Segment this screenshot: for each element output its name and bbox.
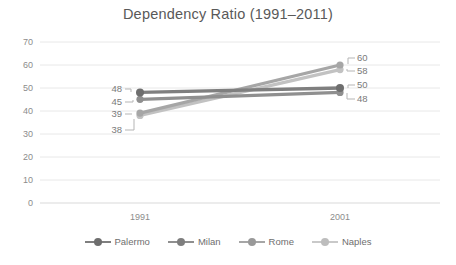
- y-tick-label: 0: [28, 198, 33, 208]
- legend-marker-icon: [312, 237, 338, 246]
- legend-marker-icon: [239, 237, 265, 246]
- legend-label: Palermo: [115, 236, 150, 247]
- legend-label: Milan: [198, 236, 221, 247]
- x-axis: 1991 2001: [130, 212, 350, 222]
- legend-label: Naples: [342, 236, 372, 247]
- data-label-left-rome: 39: [111, 108, 122, 119]
- data-label-right-palermo: 50: [357, 79, 368, 90]
- legend-item-naples[interactable]: Naples: [312, 236, 372, 247]
- x-tick-label: 1991: [130, 212, 150, 222]
- chart-container: Dependency Ratio (1991–2011) 70 60 50 40…: [0, 0, 456, 265]
- leader-line-right-48: [347, 93, 355, 99]
- y-axis: 70 60 50 40 30 20 10 0: [23, 37, 33, 208]
- chart-canvas: 70 60 50 40 30 20 10 0 1991 2001: [0, 0, 456, 265]
- legend-item-palermo[interactable]: Palermo: [85, 236, 150, 247]
- legend-item-rome[interactable]: Rome: [239, 236, 294, 247]
- leader-line-left-38: [125, 119, 134, 130]
- y-tick-label: 40: [23, 106, 33, 116]
- leader-line-right-58: [347, 69, 355, 71]
- legend-label: Rome: [269, 236, 294, 247]
- y-tick-label: 10: [23, 175, 33, 185]
- data-point-rome-1991: [136, 110, 143, 117]
- chart-legend: Palermo Milan Rome Naples: [0, 236, 456, 247]
- y-tick-label: 70: [23, 37, 33, 47]
- y-tick-label: 20: [23, 152, 33, 162]
- leader-line-left-45: [125, 100, 133, 102]
- series-line-palermo: [140, 88, 340, 92]
- leader-line-left-48: [125, 89, 131, 92]
- data-point-milan-1991: [136, 96, 143, 103]
- leader-line-right-60: [348, 58, 355, 64]
- data-point-palermo-1991: [136, 88, 144, 96]
- data-label-right-naples: 58: [357, 65, 368, 76]
- legend-marker-icon: [85, 237, 111, 246]
- data-label-right-milan: 48: [357, 93, 368, 104]
- legend-marker-icon: [168, 237, 194, 246]
- right-data-labels: 60 58 50 48: [347, 52, 368, 104]
- data-label-left-palermo: 48: [111, 83, 122, 94]
- left-data-labels: 48 45 39 38: [111, 83, 134, 135]
- data-label-left-naples: 38: [111, 124, 122, 135]
- legend-item-milan[interactable]: Milan: [168, 236, 221, 247]
- data-label-right-rome: 60: [357, 52, 368, 63]
- data-point-palermo-2001: [336, 84, 344, 92]
- x-tick-label: 2001: [330, 212, 350, 222]
- y-tick-label: 60: [23, 60, 33, 70]
- y-tick-label: 30: [23, 129, 33, 139]
- data-point-rome-2001: [336, 61, 343, 68]
- y-tick-label: 50: [23, 83, 33, 93]
- data-label-left-milan: 45: [111, 96, 122, 107]
- gridlines: [40, 42, 440, 203]
